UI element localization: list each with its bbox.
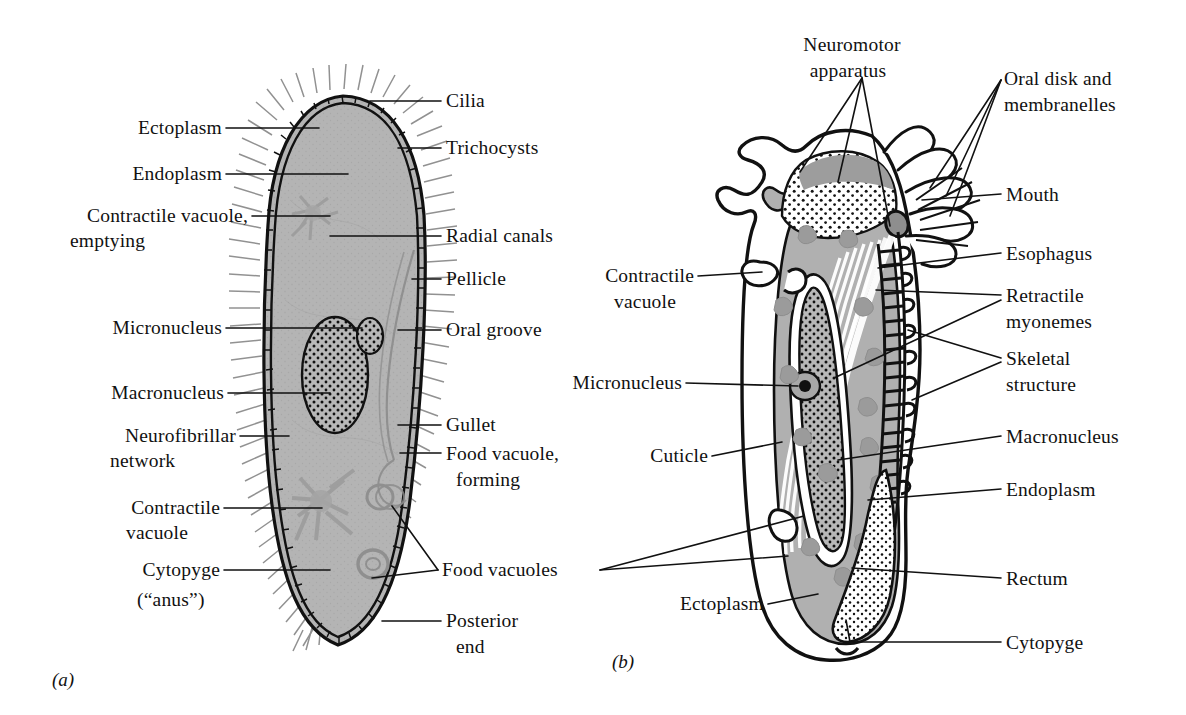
- panel-b-label-macronucleus: Macronucleus: [1006, 426, 1119, 447]
- label-text-line2: vacuole: [126, 522, 188, 543]
- panel-b-label-cuticle: Cuticle: [650, 445, 708, 466]
- panel-a-label-oral-groove: Oral groove: [446, 319, 542, 340]
- panel-a-label-endoplasm: Endoplasm: [132, 163, 222, 184]
- panel-b-tag: (b): [612, 651, 634, 673]
- label-text-line1: Contractile vacuole,: [87, 205, 248, 226]
- oral-disk: [782, 151, 896, 238]
- label-text: Ectoplasm: [138, 117, 222, 138]
- figure-page: Ectoplasm Endoplasm Contractile vacuole,…: [0, 0, 1186, 715]
- label-text: Rectum: [1006, 568, 1068, 589]
- label-text: Oral groove: [446, 319, 542, 340]
- panel-b-label-endoplasm: Endoplasm: [1006, 479, 1096, 500]
- label-text: Cilia: [446, 90, 485, 111]
- label-text-line1: Contractile: [131, 497, 220, 518]
- panel-b-label-cytopyge: Cytopyge: [1006, 632, 1083, 653]
- label-text: Macronucleus: [1006, 426, 1119, 447]
- label-text-line2: emptying: [70, 230, 145, 251]
- label-text-line2: forming: [456, 469, 520, 490]
- label-text: Esophagus: [1006, 243, 1092, 264]
- label-text: Macronucleus: [111, 382, 224, 403]
- panel-a-label-pellicle: Pellicle: [446, 268, 506, 289]
- panel-tag-text: (a): [52, 669, 74, 691]
- panel-b-label-mouth: Mouth: [1006, 184, 1059, 205]
- label-text-line2: membranelles: [1004, 94, 1116, 115]
- figure-illustration: Ectoplasm Endoplasm Contractile vacuole,…: [0, 0, 1186, 715]
- label-text-line2: (“anus”): [137, 589, 205, 611]
- label-text-line1: Cytopyge: [143, 559, 220, 580]
- panel-a-label-ectoplasm: Ectoplasm: [138, 117, 222, 138]
- panel-a-label-trichocysts: Trichocysts: [446, 137, 539, 158]
- label-text-line1: Retractile: [1006, 285, 1084, 306]
- panel-b-label-micronucleus: Micronucleus: [572, 372, 682, 393]
- label-text: Endoplasm: [1006, 479, 1096, 500]
- label-text-line2: end: [456, 636, 485, 657]
- label-text: Radial canals: [446, 225, 553, 246]
- panel-b-label-ectoplasm: Ectoplasm: [680, 593, 764, 614]
- panel-a-label-micronucleus: Micronucleus: [112, 317, 222, 338]
- panel-a-label-food-vacuoles: Food vacuoles: [442, 559, 558, 580]
- label-text: Ectoplasm: [680, 593, 764, 614]
- label-text-line1: Neuromotor: [803, 34, 901, 55]
- label-text-line1: Oral disk and: [1004, 68, 1112, 89]
- label-text: Micronucleus: [112, 317, 222, 338]
- label-text-line1: Neurofibrillar: [125, 425, 236, 446]
- label-text: Mouth: [1006, 184, 1059, 205]
- panel-a-tag: (a): [52, 669, 74, 691]
- label-text: Gullet: [446, 414, 496, 435]
- panel-a-label-radial-canals: Radial canals: [446, 225, 553, 246]
- panel-b-label-rectum: Rectum: [1006, 568, 1068, 589]
- panel-tag-text: (b): [612, 651, 634, 673]
- label-text: Cuticle: [650, 445, 708, 466]
- micronucleus: [357, 318, 383, 354]
- label-text: Trichocysts: [446, 137, 539, 158]
- label-text-line1: Skeletal: [1006, 348, 1071, 369]
- panel-a-label-macronucleus: Macronucleus: [111, 382, 224, 403]
- label-text-line1: Food vacuole,: [446, 443, 559, 464]
- label-text: Endoplasm: [132, 163, 222, 184]
- label-text: Food vacuoles: [442, 559, 558, 580]
- panel-a-label-gullet: Gullet: [446, 414, 496, 435]
- label-text-line1: Posterior: [446, 610, 519, 631]
- label-text: Micronucleus: [572, 372, 682, 393]
- label-text: Pellicle: [446, 268, 506, 289]
- label-text-line2: network: [110, 450, 175, 471]
- label-text-line1: Contractile: [605, 265, 694, 286]
- label-text-line2: apparatus: [810, 60, 887, 81]
- label-text-line2: structure: [1006, 374, 1076, 395]
- label-text-line2: vacuole: [614, 291, 676, 312]
- label-text-line2: myonemes: [1006, 311, 1092, 332]
- label-text: Cytopyge: [1006, 632, 1083, 653]
- panel-b-label-esophagus: Esophagus: [1006, 243, 1092, 264]
- panel-a-label-cilia: Cilia: [446, 90, 485, 111]
